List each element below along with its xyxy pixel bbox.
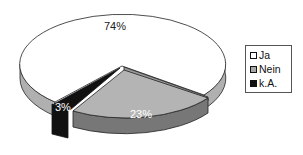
legend-label-nein: Nein xyxy=(259,63,281,75)
legend-item-ja: Ja xyxy=(250,49,270,61)
legend-swatch-ka xyxy=(250,80,257,87)
legend-swatch-nein xyxy=(250,66,257,73)
legend-swatch-ja xyxy=(250,52,257,59)
label-nein: 23% xyxy=(130,108,152,120)
label-ka: 3% xyxy=(55,101,71,113)
label-ja: 74% xyxy=(104,20,126,32)
legend-item-nein: Nein xyxy=(250,63,281,75)
legend-item-ka: k.A. xyxy=(250,77,277,89)
legend: Ja Nein k.A. xyxy=(245,45,292,93)
legend-label-ja: Ja xyxy=(259,49,270,61)
legend-label-ka: k.A. xyxy=(259,77,277,89)
